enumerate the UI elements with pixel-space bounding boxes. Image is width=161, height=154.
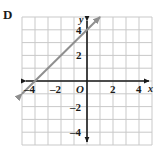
origin-label: O <box>76 84 84 95</box>
x-tick-label: 4 <box>136 84 142 95</box>
y-tick-label: 4 <box>76 25 82 36</box>
y-tick-label: –2 <box>70 102 81 113</box>
x-axis-label: x <box>148 84 153 94</box>
y-tick-label: 2 <box>76 50 82 61</box>
x-tick-label: –2 <box>50 84 61 95</box>
y-tick-label: –4 <box>70 127 81 138</box>
coordinate-plane: –4–224–4–224 O x y <box>22 17 152 145</box>
plotted-line <box>22 17 152 145</box>
x-tick-label: 2 <box>110 84 116 95</box>
x-tick-label: –4 <box>24 84 35 95</box>
answer-choice-letter: D <box>3 8 12 21</box>
y-axis-label: y <box>79 15 83 25</box>
graph-figure: D –4–224–4–224 O x y <box>0 0 161 154</box>
